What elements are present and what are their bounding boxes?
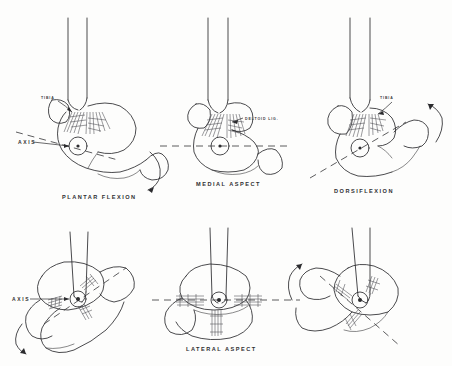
tibia-label-top-left: TIBIA — [41, 96, 55, 100]
caption-dorsiflexion: DORSIFLEXION — [334, 188, 394, 194]
caption-plantar-flexion: PLANTAR FLEXION — [62, 194, 137, 200]
caption-medial-aspect: MEDIAL ASPECT — [196, 181, 261, 187]
figure-canvas: AXIS TIBIA PLANTAR FLEXION — [0, 0, 452, 366]
caption-lateral-aspect: LATERAL ASPECT — [186, 346, 257, 352]
axis-label-top-left: AXIS — [18, 139, 36, 145]
anatomical-figure: AXIS TIBIA PLANTAR FLEXION — [0, 0, 452, 366]
axis-label-bottom-left: AXIS — [12, 296, 30, 302]
tibia-label-top-right: TIBIA — [380, 96, 394, 100]
deltoid-label: DELTOID LIG. — [245, 117, 279, 121]
